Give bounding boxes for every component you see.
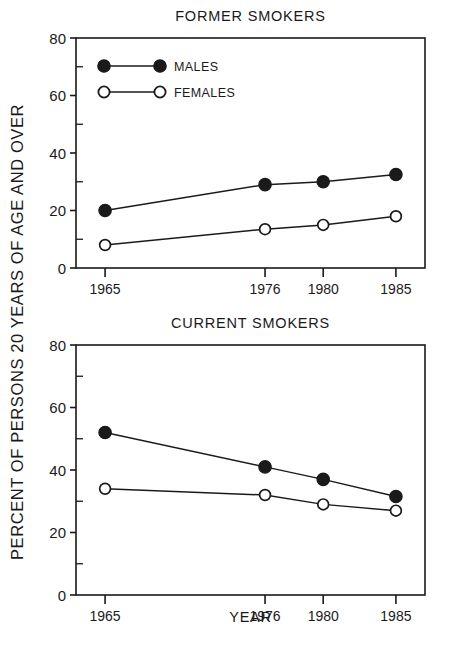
x-tick-label: 1985 (380, 281, 411, 297)
data-point-males (99, 426, 111, 438)
data-point-males (317, 473, 329, 485)
y-tick-label: 0 (58, 587, 66, 604)
y-tick-label: 80 (49, 337, 66, 354)
y-tick-label: 80 (49, 30, 66, 47)
chart-figure: PERCENT OF PERSONS 20 YEARS OF AGE AND O… (0, 0, 455, 664)
x-tick-label: 1976 (249, 281, 280, 297)
y-tick-label: 60 (49, 87, 66, 104)
x-tick-label: 1965 (90, 281, 121, 297)
x-axis-label: YEAR (76, 609, 425, 625)
y-tick-label: 40 (49, 462, 66, 479)
data-point-females (100, 483, 111, 494)
legend-marker-females (98, 86, 109, 97)
y-tick-label: 0 (58, 260, 66, 277)
series-line-females (105, 489, 396, 511)
series-line-males (105, 175, 396, 211)
data-point-males (390, 168, 402, 180)
legend-marker-males (154, 60, 166, 72)
data-point-females (260, 490, 271, 501)
plot-former-smokers: 0204060801965197619801985MALESFEMALES (0, 0, 455, 300)
data-point-males (390, 490, 402, 502)
y-tick-label: 60 (49, 399, 66, 416)
legend-label-males: MALES (174, 60, 218, 74)
data-point-males (259, 178, 271, 190)
x-tick-label: 1980 (308, 281, 339, 297)
legend-label-females: FEMALES (174, 86, 235, 100)
panel-former-smokers: FORMER SMOKERS 0204060801965197619801985… (0, 0, 455, 300)
legend-marker-females (154, 86, 165, 97)
plot-current-smokers: 0204060801965197619801985 (0, 307, 455, 647)
data-point-males (99, 204, 111, 216)
data-point-females (318, 219, 329, 230)
y-tick-label: 40 (49, 145, 66, 162)
data-point-females (391, 211, 402, 222)
panel-current-smokers: CURRENT SMOKERS 020406080196519761980198… (0, 307, 455, 647)
data-point-females (260, 224, 271, 235)
series-line-females (105, 216, 396, 245)
legend-marker-males (98, 60, 110, 72)
data-point-females (391, 505, 402, 516)
y-tick-label: 20 (49, 524, 66, 541)
data-point-males (317, 176, 329, 188)
y-tick-label: 20 (49, 202, 66, 219)
plot-frame (76, 345, 425, 595)
plot-frame (76, 38, 425, 268)
data-point-females (100, 240, 111, 251)
data-point-females (318, 499, 329, 510)
data-point-males (259, 461, 271, 473)
series-line-males (105, 433, 396, 497)
